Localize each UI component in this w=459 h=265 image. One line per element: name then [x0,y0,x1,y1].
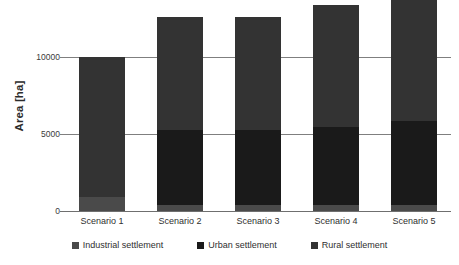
legend-label-rural: Rural settlement [322,240,388,250]
x-label-scenario-4: Scenario 4 [296,216,376,226]
y-axis-ticks: 10000 5000 0 [13,0,60,265]
bar-segment-urban-2 [157,130,203,205]
bar-segment-rural-4 [313,5,359,127]
y-tick-label-5000: 5000 [18,129,60,139]
y-tick-label-10000: 10000 [18,52,60,62]
bar-scenario-5 [391,0,437,211]
legend-swatch-urban-icon [197,242,204,249]
bar-segment-urban-5 [391,121,437,205]
bar-scenario-4 [313,5,359,211]
bar-segment-rural-1 [79,57,125,197]
x-label-scenario-1: Scenario 1 [62,216,142,226]
bar-segment-rural-2 [157,17,203,130]
bar-segment-industrial-5 [391,205,437,211]
y-tick-label-0: 0 [18,206,60,216]
bar-scenario-2 [157,17,203,211]
legend-label-industrial: Industrial settlement [83,240,164,250]
bar-segment-urban-3 [235,130,281,205]
chart-legend: Industrial settlement Urban settlement R… [0,240,459,250]
bar-segment-industrial-1 [79,197,125,211]
legend-label-urban: Urban settlement [208,240,277,250]
bar-segment-industrial-4 [313,205,359,211]
legend-swatch-rural-icon [311,242,318,249]
legend-swatch-industrial-icon [72,242,79,249]
bar-scenario-3 [235,17,281,211]
x-label-scenario-5: Scenario 5 [374,216,454,226]
stacked-bar-chart: Area [ha] 10000 5000 0 [0,0,459,265]
bar-segment-industrial-2 [157,205,203,211]
x-label-scenario-2: Scenario 2 [140,216,220,226]
legend-item-industrial: Industrial settlement [72,240,164,250]
x-axis-labels: Scenario 1 Scenario 2 Scenario 3 Scenari… [60,216,451,234]
bar-segment-industrial-3 [235,205,281,211]
legend-item-urban: Urban settlement [197,240,277,250]
bar-segment-rural-3 [235,17,281,130]
bar-segment-rural-5 [391,0,437,121]
x-label-scenario-3: Scenario 3 [218,216,298,226]
bar-scenario-1 [79,57,125,211]
bar-segment-urban-4 [313,127,359,205]
legend-item-rural: Rural settlement [311,240,388,250]
